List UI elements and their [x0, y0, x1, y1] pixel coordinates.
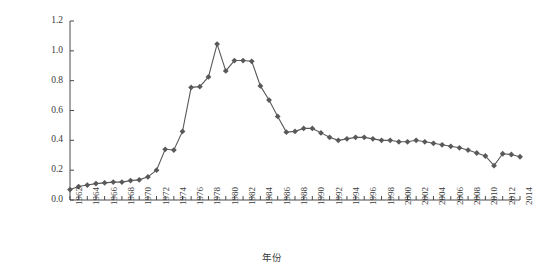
- x-tick-label: 1994: [351, 165, 361, 205]
- data-point-marker: [266, 97, 272, 103]
- data-point-marker: [171, 147, 177, 153]
- data-point-marker: [102, 180, 108, 186]
- x-tick-label: 1988: [299, 165, 309, 205]
- data-point-marker: [517, 154, 523, 160]
- y-tick-label: 0.0: [37, 194, 63, 204]
- x-tick-label: 1990: [316, 165, 326, 205]
- data-point-marker: [396, 139, 402, 145]
- data-point-marker: [249, 58, 255, 64]
- data-point-marker: [335, 137, 341, 143]
- x-tick-label: 2000: [403, 165, 413, 205]
- data-point-marker: [370, 136, 376, 142]
- x-tick-label: 1996: [368, 165, 378, 205]
- x-tick-label: 1986: [282, 165, 292, 205]
- data-point-marker: [439, 142, 445, 148]
- data-point-marker: [318, 130, 324, 136]
- x-tick-label: 2014: [524, 165, 534, 205]
- y-tick-label: 1.0: [37, 45, 63, 55]
- data-point-marker: [508, 152, 514, 158]
- chart-canvas: [0, 0, 544, 277]
- y-tick-label: 0.2: [37, 164, 63, 174]
- data-point-marker: [214, 41, 220, 47]
- x-tick-label: 2006: [455, 165, 465, 205]
- x-tick-label: 2012: [507, 165, 517, 205]
- x-tick-label: 1974: [178, 165, 188, 205]
- x-tick-label: 2002: [420, 165, 430, 205]
- data-point-marker: [405, 139, 411, 145]
- x-tick-label: 1978: [212, 165, 222, 205]
- data-point-marker: [188, 84, 194, 90]
- data-point-marker: [474, 150, 480, 156]
- data-point-marker: [344, 136, 350, 142]
- y-tick-label: 1.2: [37, 15, 63, 25]
- y-tick-label: 0.6: [37, 105, 63, 115]
- y-tick-label: 0.8: [37, 75, 63, 85]
- x-tick-label: 1970: [143, 165, 153, 205]
- x-tick-label: 1998: [386, 165, 396, 205]
- x-tick-label: 1976: [195, 165, 205, 205]
- x-tick-label: 2008: [472, 165, 482, 205]
- data-point-marker: [448, 143, 454, 149]
- data-point-marker: [422, 139, 428, 145]
- data-point-marker: [379, 137, 385, 143]
- y-tick-label: 0.4: [37, 134, 63, 144]
- axis-lines: [70, 21, 520, 200]
- data-point-marker: [457, 145, 463, 151]
- x-axis-ticks: [70, 196, 520, 200]
- data-point-marker: [67, 187, 73, 193]
- data-point-marker: [136, 177, 142, 183]
- data-point-marker: [119, 179, 125, 185]
- x-tick-label: 1966: [109, 165, 119, 205]
- x-tick-label: 1972: [161, 165, 171, 205]
- data-point-marker: [84, 182, 90, 188]
- data-point-marker: [465, 147, 471, 153]
- data-point-marker: [309, 126, 315, 132]
- x-tick-label: 2004: [437, 165, 447, 205]
- data-point-marker: [257, 83, 263, 89]
- data-point-marker: [292, 128, 298, 134]
- data-point-marker: [327, 134, 333, 140]
- y-axis-title-text: 比例/%: [0, 35, 3, 105]
- data-point-marker: [413, 137, 419, 143]
- data-point-marker: [353, 134, 359, 140]
- x-tick-label: 1982: [247, 165, 257, 205]
- data-point-marker: [240, 58, 246, 64]
- line-chart: 0.00.20.40.60.81.01.2 196219641966196819…: [0, 0, 544, 277]
- data-point-marker: [275, 114, 281, 120]
- x-tick-label: 1984: [264, 165, 274, 205]
- data-point-marker: [361, 134, 367, 140]
- data-point-marker: [431, 140, 437, 146]
- x-tick-label: 1980: [230, 165, 240, 205]
- data-point-marker: [162, 146, 168, 152]
- x-tick-label: 1962: [74, 165, 84, 205]
- data-point-marker: [180, 128, 186, 134]
- x-tick-label: 1968: [126, 165, 136, 205]
- x-tick-label: 2010: [489, 165, 499, 205]
- y-axis-title: 比例/%: [14, 78, 30, 148]
- x-tick-label: 1964: [91, 165, 101, 205]
- x-axis-title: 年份: [0, 250, 544, 264]
- data-point-marker: [283, 129, 289, 135]
- data-point-marker: [301, 126, 307, 132]
- series-line: [70, 44, 520, 189]
- data-point-marker: [387, 137, 393, 143]
- x-tick-label: 1992: [334, 165, 344, 205]
